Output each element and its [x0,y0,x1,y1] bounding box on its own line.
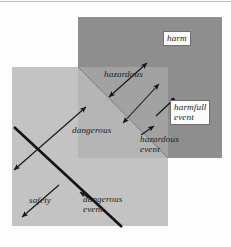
hazardous-event-label: hazardous event [140,134,179,155]
dangerous-label: dangerous [72,125,111,135]
safety-label: safety [29,195,51,205]
hazardous-label: hazardous [104,69,143,79]
diagram-canvas: harm harmfull event hazardous hazardous … [0,0,231,247]
dangerous-event-label: dangerous event [83,194,122,215]
harm-label: harm [163,31,191,46]
harmfull-event-label: harmfull event [170,100,210,125]
